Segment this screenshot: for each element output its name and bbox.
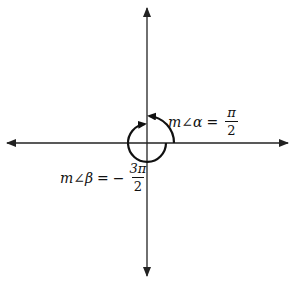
coordinate-plane (0, 0, 295, 281)
alpha-numerator: π (225, 106, 238, 121)
alpha-prefix: m∠ (168, 114, 193, 130)
alpha-fraction: π 2 (225, 106, 238, 137)
beta-numerator: 3π (128, 162, 149, 177)
beta-sign: − (113, 170, 125, 186)
alpha-equals: = (206, 114, 218, 130)
beta-equals: = (97, 170, 109, 186)
angle-diagram: m∠α = π 2 m∠β = − 3π 2 (0, 0, 295, 281)
beta-fraction: 3π 2 (128, 162, 149, 193)
alpha-denominator: 2 (225, 121, 237, 137)
beta-symbol: β (85, 170, 93, 186)
alpha-symbol: α (193, 114, 202, 130)
beta-denominator: 2 (132, 177, 144, 193)
alpha-label: m∠α = π 2 (168, 106, 238, 137)
beta-label: m∠β = − 3π 2 (60, 162, 148, 193)
beta-prefix: m∠ (60, 170, 85, 186)
